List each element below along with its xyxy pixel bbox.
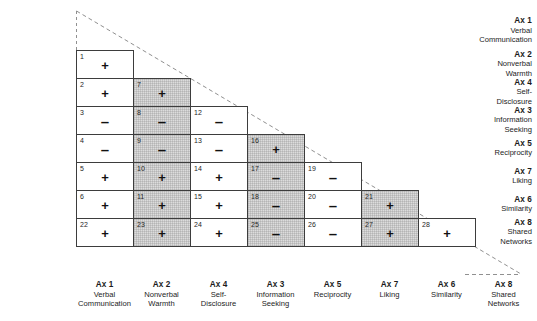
matrix-cell-28[interactable]: 28+: [418, 218, 476, 247]
cell-sign: +: [191, 170, 247, 183]
matrix-cell-4[interactable]: 4–: [76, 134, 134, 163]
row-label-code: Ax 3: [458, 106, 532, 116]
row-label-code: Ax 2: [458, 50, 532, 60]
row-label-desc: Seeking: [458, 125, 532, 135]
col-label-desc: Networks: [469, 299, 537, 309]
row-label-ax-3: Ax 3InformationSeeking: [458, 106, 532, 135]
cell-sign: +: [419, 226, 475, 239]
row-label-ax-2: Ax 2NonverbalWarmth: [458, 50, 532, 79]
matrix-cell-12[interactable]: 12–: [190, 106, 248, 135]
matrix-cell-22[interactable]: 22+: [76, 218, 134, 247]
row-label-ax-6: Ax 6Similarity: [458, 195, 532, 214]
matrix-cell-18[interactable]: 18–: [247, 190, 305, 219]
matrix-cell-25[interactable]: 25–: [247, 218, 305, 247]
col-label-ax-8: Ax 8SharedNetworks: [469, 280, 537, 309]
row-label-ax-1: Ax 1VerbalCommunication: [458, 16, 532, 45]
matrix-cell-11[interactable]: 11+: [133, 190, 191, 219]
cell-sign: –: [77, 142, 133, 155]
row-label-code: Ax 6: [458, 195, 532, 205]
matrix-cell-8[interactable]: 8–: [133, 106, 191, 135]
row-label-desc: Nonverbal: [458, 59, 532, 69]
cell-sign: +: [191, 198, 247, 211]
cell-sign: +: [134, 170, 190, 183]
matrix-cell-5[interactable]: 5+: [76, 162, 134, 191]
row-label-desc: Communication: [458, 35, 532, 45]
row-label-code: Ax 1: [458, 16, 532, 26]
cell-sign: –: [305, 226, 361, 239]
row-label-ax-4: Ax 4Self-Disclosure: [458, 78, 532, 107]
cell-sign: +: [191, 226, 247, 239]
cell-sign: –: [134, 114, 190, 127]
matrix-cell-23[interactable]: 23+: [133, 218, 191, 247]
row-label-code: Ax 4: [458, 78, 532, 88]
cell-sign: +: [362, 226, 418, 239]
cell-sign: +: [77, 86, 133, 99]
cell-sign: –: [248, 170, 304, 183]
matrix-cell-14[interactable]: 14+: [190, 162, 248, 191]
cell-sign: –: [248, 198, 304, 211]
row-label-desc: Information: [458, 115, 532, 125]
cell-sign: +: [77, 170, 133, 183]
matrix-cell-20[interactable]: 20–: [304, 190, 362, 219]
row-label-desc: Liking: [458, 176, 532, 186]
col-label-code: Ax 8: [469, 280, 537, 290]
matrix-cell-6[interactable]: 6+: [76, 190, 134, 219]
matrix-cell-16[interactable]: 16+: [247, 134, 305, 163]
cell-sign: +: [77, 226, 133, 239]
cell-sign: –: [134, 142, 190, 155]
row-label-ax-7: Ax 7Liking: [458, 167, 532, 186]
matrix-cell-27[interactable]: 27+: [361, 218, 419, 247]
cell-sign: –: [305, 198, 361, 211]
matrix-cell-19[interactable]: 19–: [304, 162, 362, 191]
cell-sign: +: [362, 198, 418, 211]
row-label-desc: Self-: [458, 87, 532, 97]
cell-sign: –: [305, 170, 361, 183]
row-label-desc: Similarity: [458, 204, 532, 214]
matrix-cell-21[interactable]: 21+: [361, 190, 419, 219]
matrix-cell-10[interactable]: 10+: [133, 162, 191, 191]
matrix-cell-9[interactable]: 9–: [133, 134, 191, 163]
row-label-desc: Reciprocity: [458, 148, 532, 158]
row-label-desc: Verbal: [458, 26, 532, 36]
matrix-cell-1[interactable]: 1+: [76, 50, 134, 79]
matrix-cell-3[interactable]: 3–: [76, 106, 134, 135]
cell-sign: +: [77, 58, 133, 71]
cell-sign: –: [191, 142, 247, 155]
cell-sign: –: [248, 226, 304, 239]
cell-sign: +: [134, 86, 190, 99]
cell-sign: –: [191, 114, 247, 127]
row-label-code: Ax 7: [458, 167, 532, 177]
cell-sign: +: [77, 198, 133, 211]
matrix-cell-13[interactable]: 13–: [190, 134, 248, 163]
cell-sign: +: [248, 142, 304, 155]
matrix-cell-7[interactable]: 7+: [133, 78, 191, 107]
col-label-desc: Shared: [469, 290, 537, 300]
col-label-desc: Seeking: [241, 299, 311, 309]
row-label-ax-5: Ax 5Reciprocity: [458, 139, 532, 158]
matrix-cell-2[interactable]: 2+: [76, 78, 134, 107]
cell-sign: –: [77, 114, 133, 127]
matrix-cell-24[interactable]: 24+: [190, 218, 248, 247]
row-label-code: Ax 5: [458, 139, 532, 149]
cell-sign: +: [134, 226, 190, 239]
matrix-cell-26[interactable]: 26–: [304, 218, 362, 247]
cell-sign: +: [134, 198, 190, 211]
matrix-cell-17[interactable]: 17–: [247, 162, 305, 191]
matrix-cell-15[interactable]: 15+: [190, 190, 248, 219]
